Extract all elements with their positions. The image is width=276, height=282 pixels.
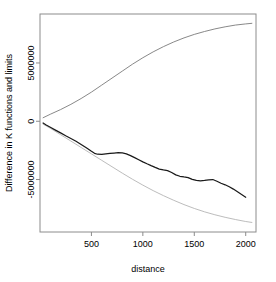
y-axis-title: Difference in K functions and limits bbox=[4, 54, 14, 192]
chart-figure: 500100015002000 50000000-5000000 distanc… bbox=[0, 0, 276, 282]
x-tick-label: 1500 bbox=[184, 239, 204, 249]
x-tick-label: 500 bbox=[84, 239, 99, 249]
x-tick-label: 2000 bbox=[236, 239, 256, 249]
x-axis-title: distance bbox=[131, 264, 165, 274]
y-tick-label: -5000000 bbox=[26, 161, 36, 199]
y-tick-label: 5000000 bbox=[26, 45, 36, 80]
y-tick-label: 0 bbox=[26, 119, 36, 124]
k-function-difference-plot: 500100015002000 50000000-5000000 distanc… bbox=[0, 0, 276, 282]
x-tick-label: 1000 bbox=[133, 239, 153, 249]
